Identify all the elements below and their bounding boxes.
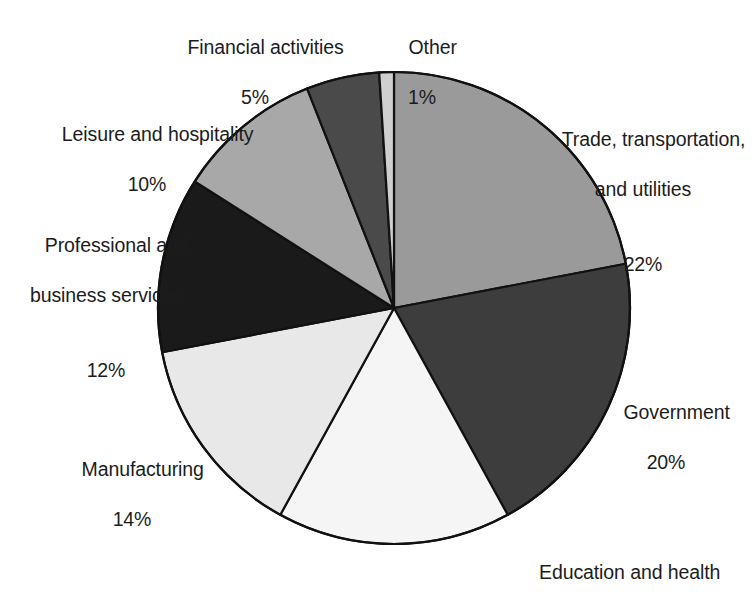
slice-label-government-percent: 20% — [586, 450, 746, 475]
slice-label-other-text: Other — [409, 36, 457, 58]
slice-label-manufacturing-percent: 14% — [44, 507, 220, 532]
slice-label-professional-text-line2: business services — [8, 283, 204, 308]
slice-label-other: Other 1% — [372, 10, 472, 160]
slice-label-trade: Trade, transportation, and utilities 22% — [540, 102, 746, 327]
slice-label-trade-text-line2: and utilities — [540, 177, 746, 202]
pie-chart: Financial activities 5% Other 1% Leisure… — [0, 0, 754, 610]
slice-label-education-text-line1: Education and health — [539, 561, 720, 583]
slice-label-professional-text-line1: Professional and — [45, 234, 189, 256]
slice-label-trade-text-line1: Trade, transportation, — [562, 128, 746, 150]
slice-label-government: Government 20% — [586, 375, 746, 525]
slice-label-education: Education and health services 16% — [504, 535, 734, 610]
slice-label-other-percent: 1% — [372, 85, 472, 110]
slice-label-professional: Professional and business services 12% — [8, 208, 204, 433]
slice-label-trade-percent: 22% — [540, 252, 746, 277]
slice-label-manufacturing-text: Manufacturing — [82, 458, 204, 480]
slice-label-professional-percent: 12% — [8, 358, 204, 383]
slice-label-leisure-text: Leisure and hospitality — [62, 123, 254, 145]
slice-label-manufacturing: Manufacturing 14% — [44, 432, 220, 582]
slice-label-government-text: Government — [623, 401, 729, 423]
slice-label-financial-text: Financial activities — [188, 36, 344, 58]
slice-label-leisure-percent: 10% — [22, 172, 272, 197]
